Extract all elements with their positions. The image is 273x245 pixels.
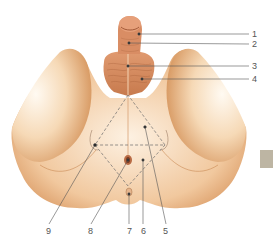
- label-2: 2: [252, 40, 257, 49]
- label-7: 7: [127, 227, 132, 236]
- side-tab-marker: [260, 150, 273, 168]
- label-3: 3: [252, 62, 257, 71]
- label-9: 9: [46, 227, 51, 236]
- label-6: 6: [141, 227, 146, 236]
- label-8: 8: [88, 227, 93, 236]
- scrotum: [103, 51, 154, 96]
- anatomical-figure: 1 2 3 4 9 8 7 6 5: [0, 0, 273, 245]
- label-5: 5: [163, 227, 168, 236]
- label-4: 4: [252, 75, 257, 84]
- label-1: 1: [252, 30, 257, 39]
- perineum-illustration: [0, 0, 273, 245]
